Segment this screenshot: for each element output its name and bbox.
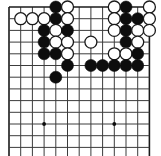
white-stone[interactable]	[108, 1, 120, 13]
hoshi-point	[112, 122, 116, 126]
black-stone[interactable]	[97, 60, 109, 72]
go-board[interactable]	[0, 0, 161, 156]
black-stone[interactable]	[132, 60, 144, 72]
black-stone[interactable]	[85, 60, 97, 72]
black-stone[interactable]	[38, 48, 50, 60]
black-stone[interactable]	[38, 36, 50, 48]
white-stone[interactable]	[143, 24, 155, 36]
white-stone[interactable]	[26, 13, 38, 25]
black-stone[interactable]	[132, 13, 144, 25]
black-stone[interactable]	[62, 60, 74, 72]
white-stone[interactable]	[38, 13, 50, 25]
white-stone[interactable]	[108, 13, 120, 25]
black-stone[interactable]	[50, 71, 62, 83]
white-stone[interactable]	[120, 48, 132, 60]
black-stone[interactable]	[120, 13, 132, 25]
hoshi-point	[42, 122, 46, 126]
white-stone[interactable]	[132, 24, 144, 36]
black-stone[interactable]	[50, 13, 62, 25]
white-stone[interactable]	[62, 36, 74, 48]
black-stone[interactable]	[50, 48, 62, 60]
go-board-figure	[0, 0, 161, 156]
black-stone[interactable]	[120, 1, 132, 13]
white-stone[interactable]	[62, 13, 74, 25]
white-stone[interactable]	[108, 48, 120, 60]
black-stone[interactable]	[132, 48, 144, 60]
white-stone[interactable]	[62, 48, 74, 60]
white-stone[interactable]	[108, 24, 120, 36]
black-stone[interactable]	[120, 36, 132, 48]
black-stone[interactable]	[120, 24, 132, 36]
white-stone[interactable]	[62, 1, 74, 13]
white-stone[interactable]	[15, 13, 27, 25]
black-stone[interactable]	[62, 24, 74, 36]
black-stone[interactable]	[50, 1, 62, 13]
black-stone[interactable]	[38, 24, 50, 36]
white-stone[interactable]	[50, 36, 62, 48]
white-stone[interactable]	[85, 36, 97, 48]
black-stone[interactable]	[108, 60, 120, 72]
white-stone[interactable]	[143, 1, 155, 13]
white-stone[interactable]	[132, 36, 144, 48]
white-stone[interactable]	[50, 24, 62, 36]
white-stone[interactable]	[143, 13, 155, 25]
black-stone[interactable]	[120, 60, 132, 72]
